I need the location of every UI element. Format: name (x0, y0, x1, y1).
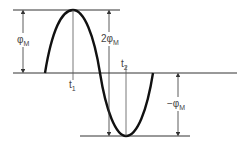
t2-label: t2 (121, 58, 128, 71)
flux-waveform-diagram: φM 2φM −φM t1 t2 (0, 0, 250, 148)
t1-label: t1 (69, 79, 76, 92)
